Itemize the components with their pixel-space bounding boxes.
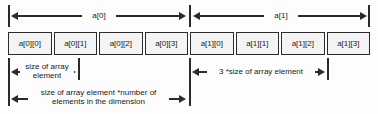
measure-arrow-three-head-left <box>192 68 199 76</box>
array-cell: a[1][2] <box>281 32 325 55</box>
measure-arrow-element-head-left <box>11 68 18 76</box>
boundary-tick-right <box>368 5 370 27</box>
measure-arrow-dimension-head-left <box>11 95 18 103</box>
array-cell-strip: a[0][0] a[0][1] a[0][2] a[0][3] a[1][0] … <box>8 32 370 55</box>
array-cell: a[1][3] <box>327 32 371 55</box>
span-arrow-a1-head-right <box>360 12 367 20</box>
measure-tick-left <box>8 58 10 106</box>
boundary-tick-middle-top <box>189 5 191 27</box>
span-label-a0: a[0] <box>82 11 116 20</box>
measure-arrow-three-head-right <box>318 68 325 76</box>
span-arrow-a0-head-right <box>179 12 186 20</box>
span-label-a1: a[1] <box>264 11 298 20</box>
measure-label-dimension-size: size of array element *number of element… <box>28 88 169 106</box>
measure-tick-far-right <box>327 58 329 80</box>
array-cell: a[1][1] <box>236 32 280 55</box>
measure-tick-element-right <box>78 58 80 80</box>
measure-tick-middle <box>189 58 191 106</box>
array-cell: a[0][2] <box>99 32 143 55</box>
span-arrow-a1-head-left <box>193 12 200 20</box>
measure-label-element-size: size of array element <box>20 62 74 80</box>
boundary-tick-left <box>8 5 10 27</box>
array-cell: a[0][1] <box>54 32 98 55</box>
array-cell: a[0][3] <box>145 32 189 55</box>
array-cell: a[1][0] <box>190 32 234 55</box>
measure-arrow-dimension-head-right <box>179 95 186 103</box>
measure-label-three-element-size: 3 *size of array element <box>207 67 315 76</box>
array-cell: a[0][0] <box>8 32 52 55</box>
array-memory-layout-diagram: a[0] a[1] a[0][0] a[0][1] a[0][2] a[0][3… <box>0 0 378 114</box>
span-arrow-a0-head-left <box>11 12 18 20</box>
